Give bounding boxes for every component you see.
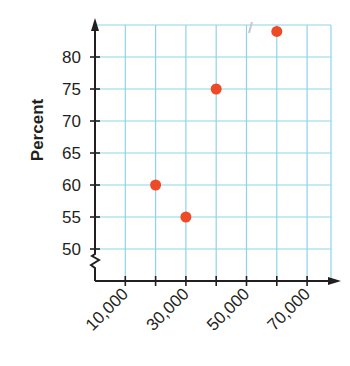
x-axis-arrow-icon bbox=[328, 277, 341, 285]
data-point bbox=[271, 26, 282, 37]
y-axis-title: Percent bbox=[28, 98, 47, 161]
x-tick-label: 50,000 bbox=[203, 284, 253, 334]
y-tick-label: 60 bbox=[62, 176, 81, 195]
stray-mark bbox=[249, 22, 252, 33]
x-axis-ticks: 10,00030,00050,00070,000 bbox=[82, 276, 314, 335]
y-tick-label: 55 bbox=[62, 208, 81, 227]
grid bbox=[95, 25, 331, 281]
y-tick-label: 80 bbox=[62, 48, 81, 67]
x-tick-label: 30,000 bbox=[143, 284, 193, 334]
y-tick-label: 50 bbox=[62, 240, 81, 259]
y-tick-label: 65 bbox=[62, 144, 81, 163]
y-tick-label: 75 bbox=[62, 80, 81, 99]
x-tick-label: 70,000 bbox=[264, 284, 314, 334]
x-tick-label: 10,000 bbox=[82, 284, 132, 334]
data-point bbox=[211, 84, 222, 95]
y-tick-label: 70 bbox=[62, 112, 81, 131]
data-point bbox=[150, 180, 161, 191]
y-axis-line bbox=[91, 28, 99, 281]
data-point bbox=[180, 212, 191, 223]
scatter-chart: 50556065707580 10,00030,00050,00070,000 … bbox=[0, 0, 350, 366]
